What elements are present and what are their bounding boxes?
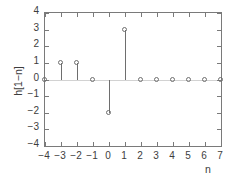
y-tick-label: −3 <box>20 121 39 132</box>
y-tick-label: 4 <box>20 5 39 16</box>
stem-plot-figure: h[1−n] n −4−3−2−10123456743210−1−2−3−4 <box>0 0 238 181</box>
x-axis-tick <box>221 142 222 146</box>
data-point-marker <box>202 77 207 82</box>
data-point-marker <box>138 77 143 82</box>
x-axis-tick <box>221 13 222 17</box>
x-axis-tick <box>61 142 62 146</box>
x-axis-tick <box>93 13 94 17</box>
data-point-marker <box>106 110 111 115</box>
x-axis-tick <box>109 142 110 146</box>
y-tick-label: −4 <box>20 138 39 149</box>
y-tick-label: 3 <box>20 22 39 33</box>
plot-area <box>44 12 222 147</box>
zero-baseline <box>45 80 221 81</box>
y-axis-tick <box>217 146 221 147</box>
y-axis-tick <box>217 96 221 97</box>
stem-line <box>109 80 110 113</box>
y-axis-tick <box>45 146 49 147</box>
y-axis-tick <box>45 113 49 114</box>
y-tick-label: 1 <box>20 55 39 66</box>
x-axis-tick <box>189 142 190 146</box>
stem-line <box>61 63 62 80</box>
x-axis-tick <box>125 142 126 146</box>
y-tick-label: −2 <box>20 105 39 116</box>
data-point-marker <box>122 27 127 32</box>
y-axis-tick <box>217 30 221 31</box>
data-point-marker <box>90 77 95 82</box>
stem-line <box>77 63 78 80</box>
y-axis-tick <box>45 63 49 64</box>
data-point-marker <box>186 77 191 82</box>
x-axis-tick <box>173 13 174 17</box>
x-tick-label: 7 <box>209 150 231 161</box>
x-axis-tick <box>109 13 110 17</box>
x-axis-tick <box>125 13 126 17</box>
data-point-marker <box>218 77 223 82</box>
y-axis-tick <box>217 63 221 64</box>
y-axis-tick <box>217 46 221 47</box>
data-point-marker <box>74 60 79 65</box>
x-axis-tick <box>173 142 174 146</box>
y-axis-tick <box>217 113 221 114</box>
data-point-marker <box>170 77 175 82</box>
stem-line <box>125 30 126 80</box>
x-axis-tick <box>141 142 142 146</box>
y-tick-label: −1 <box>20 88 39 99</box>
x-axis-tick <box>205 13 206 17</box>
y-axis-tick <box>45 96 49 97</box>
x-axis-tick <box>93 142 94 146</box>
x-axis-tick <box>77 142 78 146</box>
x-axis-tick <box>189 13 190 17</box>
x-axis-tick <box>157 13 158 17</box>
x-axis-tick <box>141 13 142 17</box>
x-axis-tick <box>205 142 206 146</box>
y-axis-tick <box>45 13 49 14</box>
y-axis-tick <box>45 30 49 31</box>
x-axis-label: n <box>205 163 211 175</box>
data-point-marker <box>42 77 47 82</box>
data-point-marker <box>154 77 159 82</box>
plot-inner <box>45 13 221 146</box>
y-axis-tick <box>45 46 49 47</box>
y-tick-label: 0 <box>20 72 39 83</box>
data-point-marker <box>58 60 63 65</box>
y-axis-tick <box>217 13 221 14</box>
x-axis-tick <box>77 13 78 17</box>
y-tick-label: 2 <box>20 38 39 49</box>
x-axis-tick <box>61 13 62 17</box>
x-axis-tick <box>157 142 158 146</box>
y-axis-tick <box>217 129 221 130</box>
y-axis-tick <box>45 129 49 130</box>
